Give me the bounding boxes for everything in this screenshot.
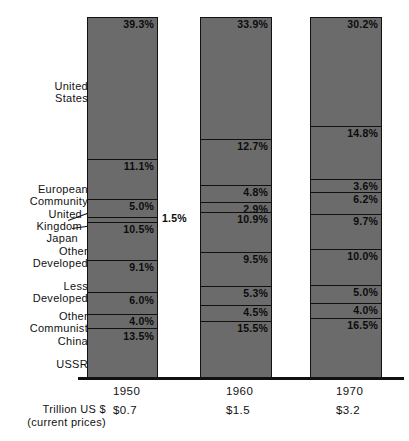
segment-value: 9.5% <box>243 254 268 265</box>
segment-1960-other-developed: 10.9% <box>201 213 271 252</box>
axis-amount-1960: $1.5 <box>226 404 250 416</box>
segment-1970-united-states: 30.2% <box>311 18 381 127</box>
segment-1960-japan: 2.9% <box>201 203 271 213</box>
segment-1970-japan: 6.2% <box>311 193 381 215</box>
segment-1970-less-developed: 10.0% <box>311 250 381 286</box>
segment-1960-other-communist: 5.3% <box>201 287 271 306</box>
segment-value: 5.3% <box>243 288 268 299</box>
segment-value: 9.7% <box>353 216 378 227</box>
category-label-china: China <box>6 335 88 347</box>
segment-value: 10.9% <box>237 214 268 225</box>
category-label-less-developed: Less Developed <box>0 280 88 304</box>
segment-1950-united-kingdom: 5.0% <box>88 200 157 218</box>
segment-1950-less-developed: 9.1% <box>88 261 157 294</box>
segment-value: 11.1% <box>124 161 154 172</box>
segment-value: 4.0% <box>353 305 378 316</box>
category-label-other-communist: Other Communist <box>0 310 88 334</box>
segment-1960-united-states: 33.9% <box>201 18 271 140</box>
bar-1950: 39.3% 11.1% 5.0% 10.5% 9.1% 6.0% 4.0% 13… <box>87 17 158 377</box>
stacked-bar-chart: United States European Community United … <box>0 0 409 441</box>
segment-value: 4.8% <box>243 187 268 198</box>
segment-1950-ussr: 13.5% <box>88 330 157 379</box>
segment-1970-ussr: 16.5% <box>311 319 381 378</box>
segment-value: 15.5% <box>237 323 268 334</box>
category-label-japan: Japan <box>6 232 78 244</box>
segment-1960-united-kingdom: 4.8% <box>201 186 271 203</box>
category-label-ussr: USSR <box>6 358 88 370</box>
segment-value: 16.5% <box>347 320 378 331</box>
axis-baseline <box>78 377 404 380</box>
segment-value: 6.0% <box>129 295 154 306</box>
segment-value: 14.8% <box>347 128 378 139</box>
segment-1960-china: 4.5% <box>201 306 271 322</box>
segment-1970-other-developed: 9.7% <box>311 215 381 250</box>
segment-1950-european-community: 11.1% <box>88 160 157 200</box>
category-label-european-community: European Community <box>0 183 88 207</box>
segment-1970-united-kingdom: 3.6% <box>311 180 381 193</box>
segment-value: 5.0% <box>353 287 378 298</box>
bar-1960: 33.9% 12.7% 4.8% 2.9% 10.9% 9.5% 5.3% 4.… <box>200 17 272 377</box>
axis-tick-1970: 1970 <box>336 385 363 397</box>
axis-tick-1960: 1960 <box>226 385 253 397</box>
segment-value: 3.6% <box>353 181 378 192</box>
segment-value: 13.5% <box>123 331 154 342</box>
segment-value-1950-japan: 1.5% <box>162 213 187 224</box>
segment-value: 30.2% <box>347 19 378 30</box>
segment-value: 39.3% <box>123 19 154 30</box>
segment-1950-united-states: 39.3% <box>88 18 157 160</box>
segment-value: 33.9% <box>237 19 268 30</box>
axis-amount-1970: $3.2 <box>336 404 360 416</box>
axis-caption: Trillion US $ (current prices) <box>2 403 106 429</box>
segment-value: 10.5% <box>123 224 154 235</box>
segment-value: 12.7% <box>237 141 268 152</box>
segment-1960-european-community: 12.7% <box>201 140 271 186</box>
segment-1970-china: 4.0% <box>311 304 381 318</box>
segment-value: 5.0% <box>129 201 154 212</box>
axis-tick-1950: 1950 <box>113 385 140 397</box>
segment-value: 6.2% <box>353 194 378 205</box>
segment-1950-china: 4.0% <box>88 315 157 329</box>
axis-amount-1950: $0.7 <box>113 404 137 416</box>
segment-1960-ussr: 15.5% <box>201 322 271 378</box>
segment-value: 10.0% <box>347 251 378 262</box>
segment-value: 9.1% <box>129 262 154 273</box>
segment-value: 4.5% <box>243 307 268 318</box>
segment-1970-european-community: 14.8% <box>311 127 381 180</box>
segment-1950-other-developed: 10.5% <box>88 223 157 261</box>
segment-1970-other-communist: 5.0% <box>311 286 381 304</box>
bar-1970: 30.2% 14.8% 3.6% 6.2% 9.7% 10.0% 5.0% 4.… <box>310 17 382 377</box>
segment-1950-other-communist: 6.0% <box>88 294 157 316</box>
category-label-other-developed: Other Developed <box>0 245 88 269</box>
segment-value: 4.0% <box>129 316 154 327</box>
segment-1960-less-developed: 9.5% <box>201 253 271 287</box>
category-label-united-states: United States <box>6 80 88 104</box>
